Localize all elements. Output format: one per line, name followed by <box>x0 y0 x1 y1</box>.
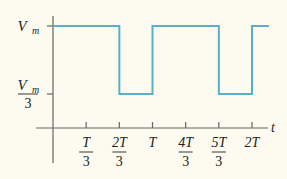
svg-text:3: 3 <box>25 96 32 111</box>
svg-text:2T: 2T <box>245 135 261 150</box>
x-tick-label: T <box>149 135 158 150</box>
svg-text:m: m <box>32 84 39 95</box>
svg-text:5T: 5T <box>211 135 227 150</box>
svg-text:V: V <box>17 77 28 93</box>
svg-text:T: T <box>82 135 91 150</box>
svg-text:V: V <box>17 18 28 34</box>
x-tick-label: 2T <box>245 135 261 150</box>
svg-text:3: 3 <box>116 154 123 169</box>
x-tick-label: 5T3 <box>211 135 227 169</box>
svg-text:2T: 2T <box>112 135 128 150</box>
svg-text:3: 3 <box>83 154 90 169</box>
svg-text:4T: 4T <box>178 135 194 150</box>
x-tick-label: 4T3 <box>178 135 194 169</box>
x-axis-label: t <box>271 120 276 135</box>
svg-text:3: 3 <box>215 154 222 169</box>
y-tick-label-low: Vm3 <box>17 77 39 111</box>
y-tick-label-high: Vm <box>17 18 39 36</box>
svg-text:m: m <box>32 25 39 36</box>
svg-text:T: T <box>149 135 158 150</box>
x-tick-label: T3 <box>79 135 93 169</box>
waveform-line <box>53 26 269 94</box>
square-wave-chart: t VmVm3 T32T3T4T35T32T <box>0 0 287 179</box>
x-tick-label: 2T3 <box>112 135 128 169</box>
svg-text:3: 3 <box>182 154 189 169</box>
